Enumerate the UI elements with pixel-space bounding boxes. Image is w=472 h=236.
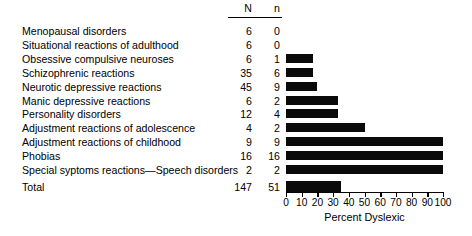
bar-track [286, 66, 443, 80]
table-row: Neurotic depressive reactions459 [0, 80, 472, 94]
cell-n: 4 [256, 107, 280, 121]
bar [286, 137, 443, 146]
category-label: Adjustment reactions of childhood [22, 135, 232, 149]
cell-N: 6 [226, 52, 252, 66]
cell-N: 2 [226, 163, 252, 177]
cell-N: 9 [226, 135, 252, 149]
bar [286, 68, 313, 77]
category-label: Schizophrenic reactions [22, 66, 232, 80]
cell-n: 51 [256, 180, 280, 194]
bar-track [286, 94, 443, 108]
table-header-row: N n [0, 2, 472, 18]
header-rule [228, 17, 282, 18]
bar [286, 151, 443, 160]
cell-n: 1 [256, 52, 280, 66]
cell-n: 0 [256, 24, 280, 38]
category-label: Adjustment reactions of adolescence [22, 121, 232, 135]
cell-n: 2 [256, 94, 280, 108]
column-header-N: N [226, 2, 252, 15]
cell-n: 0 [256, 38, 280, 52]
bar-track [286, 135, 443, 149]
cell-N: 147 [226, 180, 252, 194]
category-label: Menopausal disorders [22, 24, 232, 38]
x-axis-tick-label: 100 [433, 197, 453, 209]
cell-n: 9 [256, 80, 280, 94]
bar-track [286, 24, 443, 38]
table-row: Obsessive compulsive neuroses61 [0, 52, 472, 66]
dyslexia-percent-bar-chart: N n Menopausal disorders60Situational re… [0, 0, 472, 236]
category-label: Manic depressive reactions [22, 94, 232, 108]
table-row: Situational reactions of adulthood60 [0, 38, 472, 52]
bar-track [286, 107, 443, 121]
cell-N: 6 [226, 24, 252, 38]
cell-N: 45 [226, 80, 252, 94]
cell-n: 2 [256, 121, 280, 135]
bar-track [286, 149, 443, 163]
cell-N: 16 [226, 149, 252, 163]
category-label: Neurotic depressive reactions [22, 80, 232, 94]
table-row: Schizophrenic reactions356 [0, 66, 472, 80]
category-label: Obsessive compulsive neuroses [22, 52, 232, 66]
category-label: Personality disorders [22, 107, 232, 121]
bar-track [286, 163, 443, 177]
category-label: Phobias [22, 149, 232, 163]
bar [286, 165, 443, 174]
table-row: Menopausal disorders60 [0, 24, 472, 38]
bar [286, 123, 365, 132]
cell-N: 12 [226, 107, 252, 121]
bar [286, 54, 313, 63]
bar-track [286, 38, 443, 52]
cell-n: 16 [256, 149, 280, 163]
bar-track [286, 121, 443, 135]
cell-n: 9 [256, 135, 280, 149]
cell-N: 6 [226, 94, 252, 108]
cell-n: 6 [256, 66, 280, 80]
column-header-n: n [256, 2, 280, 15]
table-row: Adjustment reactions of adolescence42 [0, 121, 472, 135]
bar [286, 109, 338, 118]
table-row: Manic depressive reactions62 [0, 94, 472, 108]
cell-N: 6 [226, 38, 252, 52]
table-row: Phobias1616 [0, 149, 472, 163]
table-row: Special syptoms reactions—Speech disorde… [0, 163, 472, 177]
bar [286, 96, 338, 105]
table-row: Personality disorders124 [0, 107, 472, 121]
category-label: Situational reactions of adulthood [22, 38, 232, 52]
table-row: Adjustment reactions of childhood99 [0, 135, 472, 149]
cell-N: 35 [226, 66, 252, 80]
x-axis-title: Percent Dyslexic [286, 211, 443, 224]
bar [286, 82, 317, 91]
bar-track [286, 80, 443, 94]
cell-n: 2 [256, 163, 280, 177]
category-label: Total [22, 180, 232, 194]
cell-N: 4 [226, 121, 252, 135]
category-label: Special syptoms reactions—Speech disorde… [22, 163, 232, 177]
bar-track [286, 52, 443, 66]
